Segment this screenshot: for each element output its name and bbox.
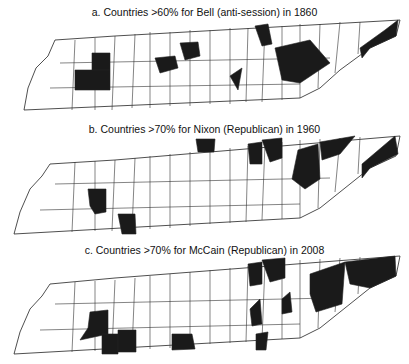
tennessee-map-1860 xyxy=(0,18,409,118)
tennessee-map-1960 xyxy=(0,134,409,239)
panel-a: a. Countries >60% for Bell (anti-session… xyxy=(0,0,409,120)
panel-c: c. Countries >70% for McCain (Republican… xyxy=(0,242,409,364)
panel-title: a. Countries >60% for Bell (anti-session… xyxy=(0,6,409,18)
panel-b: b. Countries >70% for Nixon (Republican)… xyxy=(0,120,409,242)
tennessee-map-2008 xyxy=(0,254,409,359)
